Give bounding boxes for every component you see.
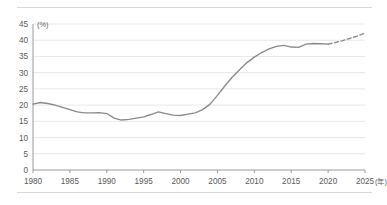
y-tick-label: 10 — [19, 134, 29, 143]
x-tick-label: 2010 — [245, 177, 264, 186]
y-tick-label: 40 — [19, 36, 29, 45]
y-tick-label: 0 — [23, 166, 28, 175]
x-tick-label: 1980 — [24, 177, 43, 186]
chart-figure: 051015202530354045 198019851990199520002… — [0, 0, 387, 205]
x-tick-label: 2005 — [208, 177, 227, 186]
x-tick-label: 2000 — [171, 177, 190, 186]
y-tick-label: 5 — [23, 150, 28, 159]
x-tick-label: 1990 — [98, 177, 117, 186]
y-tick-label: 35 — [19, 52, 29, 61]
y-tick-label: 15 — [19, 117, 29, 126]
series-line-forecast — [328, 33, 365, 44]
x-axis-tick-labels: 1980198519901995200020052010201520202025 — [24, 177, 375, 186]
series-line-actual — [33, 43, 328, 120]
x-tick-label: 2020 — [319, 177, 338, 186]
y-axis-unit-label: (%) — [37, 20, 49, 29]
y-tick-label: 45 — [19, 20, 29, 29]
y-tick-label: 30 — [19, 69, 29, 78]
plot-area: 051015202530354045 198019851990199520002… — [0, 0, 387, 205]
x-tick-label: 2025 — [356, 177, 375, 186]
y-axis-tick-labels: 051015202530354045 — [19, 20, 29, 175]
x-tick-label: 2015 — [282, 177, 301, 186]
y-tick-label: 25 — [19, 85, 29, 94]
x-tick-label: 1985 — [61, 177, 80, 186]
axis-lines — [33, 24, 365, 170]
data-series-group — [33, 33, 365, 120]
y-tick-label: 20 — [19, 101, 29, 110]
x-tick-label: 1995 — [135, 177, 154, 186]
line-chart: 051015202530354045 198019851990199520002… — [0, 0, 387, 205]
x-axis-unit-label: (年) — [375, 177, 387, 186]
